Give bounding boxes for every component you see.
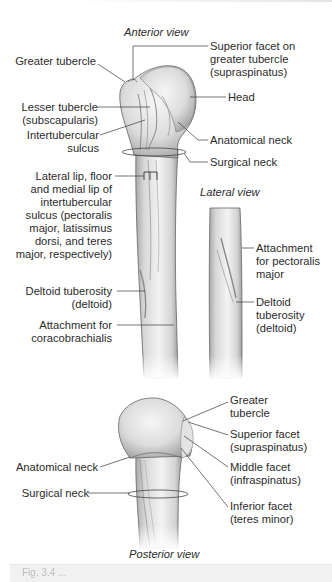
label-surgical-neck: Surgical neck — [210, 156, 277, 169]
label-inferior-facet: Inferior facet (teres minor) — [230, 500, 293, 526]
label-surgical-neck-posterior: Surgical neck — [22, 487, 89, 500]
label-intertubercular-lips: Lateral lip, floor and medial lip of int… — [16, 170, 112, 261]
label-anatomical-neck: Anatomical neck — [210, 134, 292, 147]
label-pectoralis-major: Attachment for pectoralis major — [256, 242, 320, 281]
label-greater-tubercle: Greater tubercle — [15, 55, 96, 68]
posterior-humerus — [118, 398, 193, 550]
anterior-view-title: Anterior view — [124, 26, 189, 39]
caption-text: Fig. 3.4 ... — [22, 567, 66, 578]
lateral-humerus — [205, 208, 245, 380]
label-superior-facet-greater-tubercle: Superior facet on greater tubercle (supr… — [210, 40, 295, 79]
label-head: Head — [228, 91, 255, 104]
label-greater-tubercle-posterior: Greater tubercle — [230, 394, 270, 420]
label-lesser-tubercle: Lesser tubercle (subscapularis) — [22, 101, 99, 127]
label-superior-facet: Superior facet (supraspinatus) — [230, 428, 307, 454]
label-intertubercular-sulcus: Intertubercular sulcus — [27, 129, 99, 155]
label-deltoid-tuberosity-anterior: Deltoid tuberosity (deltoid) — [26, 285, 112, 311]
label-deltoid-tuberosity-lateral: Deltoid tuberosity (deltoid) — [256, 296, 305, 335]
label-anatomical-neck-posterior: Anatomical neck — [16, 461, 98, 474]
anterior-humerus — [120, 66, 196, 380]
label-coracobrachialis: Attachment for coracobrachialis — [31, 319, 112, 345]
posterior-view-title: Posterior view — [129, 548, 199, 561]
lateral-view-title: Lateral view — [200, 186, 260, 199]
label-middle-facet: Middle facet (infraspinatus) — [230, 461, 301, 487]
caption-bar: Fig. 3.4 ... — [10, 564, 332, 582]
